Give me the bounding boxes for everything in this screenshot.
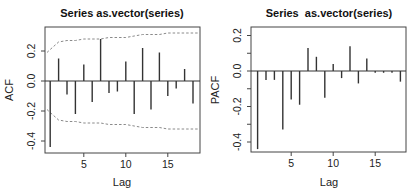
y-tick-label: 0.2 <box>25 44 37 59</box>
x-tick-label: 5 <box>81 158 87 170</box>
pacf-x-label: Lag <box>320 176 338 188</box>
acf-plot-area <box>45 27 200 153</box>
acf-chart: Series as.vector(series) -0.4-0.20.00.2 … <box>3 7 200 188</box>
pacf-plot-area <box>251 27 406 152</box>
y-tick-label: -0.4 <box>25 132 37 150</box>
pacf-y-axis: -0.4-0.20.00.2 <box>231 28 251 151</box>
acf-y-label: ACF <box>3 79 15 101</box>
y-tick-label: -0.2 <box>25 102 37 120</box>
x-tick-label: 15 <box>369 157 381 169</box>
acf-x-label: Lag <box>113 176 131 188</box>
x-tick-label: 10 <box>327 157 339 169</box>
x-tick-label: 15 <box>162 158 174 170</box>
pacf-chart: Series as.vector(series) -0.4-0.20.00.2 … <box>209 7 406 188</box>
acf-y-axis: -0.4-0.20.00.2 <box>25 44 45 150</box>
y-tick-label: -0.4 <box>231 133 243 151</box>
y-tick-label: 0.2 <box>231 28 243 43</box>
y-tick-label: 0.0 <box>25 74 37 89</box>
acf-bars <box>50 39 193 147</box>
x-tick-label: 5 <box>288 157 294 169</box>
y-tick-label: -0.2 <box>231 97 243 115</box>
x-tick-label: 10 <box>120 158 132 170</box>
confidence-bound-lower <box>47 110 198 130</box>
confidence-bound-upper <box>47 33 198 53</box>
pacf-y-label: PACF <box>209 75 221 104</box>
pacf-bars <box>258 46 401 149</box>
y-tick-label: 0.0 <box>231 64 243 79</box>
pacf-x-axis: 51015 <box>288 152 381 169</box>
acf-x-axis: 51015 <box>81 153 174 170</box>
acf-pacf-figure: Series as.vector(series) -0.4-0.20.00.2 … <box>0 0 414 195</box>
acf-title: Series as.vector(series) <box>60 7 184 19</box>
pacf-title: Series as.vector(series) <box>266 7 393 19</box>
